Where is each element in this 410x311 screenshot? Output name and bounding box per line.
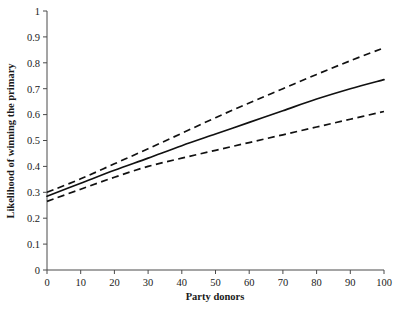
x-tick-label: 90 [345,277,356,288]
confidence-band-line-1 [47,48,384,193]
x-tick-label: 20 [109,277,120,288]
y-axis-title: Likelihood of winning the primary [5,63,16,219]
x-tick-label: 50 [210,277,221,288]
y-tick-label: 0.9 [27,32,40,43]
x-tick-label: 100 [376,277,392,288]
prediction-line [47,80,384,197]
y-tick-label: 0.5 [27,135,40,146]
y-axis-ticks: 00.10.20.30.40.50.60.70.80.91 [27,6,47,276]
y-tick-label: 0.7 [27,84,40,95]
y-tick-label: 0.2 [27,213,40,224]
chart-container: 00.10.20.30.40.50.60.70.80.91 0102030405… [0,0,410,311]
x-axis-ticks: 0102030405060708090100 [44,270,392,288]
x-tick-label: 80 [311,277,322,288]
x-tick-label: 70 [278,277,289,288]
x-tick-label: 10 [75,277,86,288]
x-tick-label: 60 [244,277,255,288]
y-tick-label: 0 [35,265,40,276]
y-tick-label: 0.6 [27,109,40,120]
y-tick-label: 1 [35,6,40,17]
x-axis-title: Party donors [186,291,245,302]
confidence-band-line-2 [47,111,384,201]
x-tick-label: 40 [177,277,188,288]
y-tick-label: 0.4 [27,161,41,172]
x-tick-label: 30 [143,277,154,288]
chart-series-group [47,48,384,202]
x-tick-label: 0 [44,277,49,288]
y-tick-label: 0.3 [27,187,40,198]
y-tick-label: 0.8 [27,58,40,69]
y-tick-label: 0.1 [27,239,40,250]
chart-plot: 00.10.20.30.40.50.60.70.80.91 0102030405… [0,0,410,311]
